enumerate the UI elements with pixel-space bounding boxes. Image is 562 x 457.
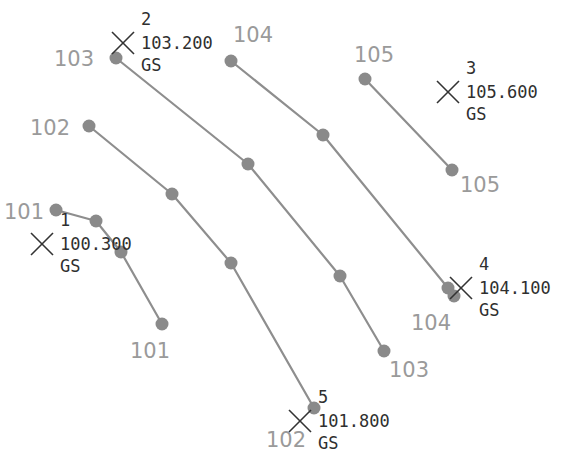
point-id: 1 xyxy=(60,210,70,230)
contour-label: 105 xyxy=(354,43,394,67)
contour-node[interactable] xyxy=(83,120,96,133)
point-code: GS xyxy=(141,55,161,75)
cross-marker-icon[interactable] xyxy=(112,32,134,54)
contour-label: 104 xyxy=(233,23,273,47)
contour-label: 103 xyxy=(54,47,94,71)
contour-label: 104 xyxy=(411,311,451,335)
contour-polyline[interactable] xyxy=(89,126,314,408)
point-id: 3 xyxy=(466,58,476,78)
survey-point-2[interactable]: 2103.200GS xyxy=(112,9,213,75)
point-elevation: 104.100 xyxy=(479,278,551,298)
point-code: GS xyxy=(466,104,486,124)
point-id: 4 xyxy=(479,254,489,274)
contour-label: 101 xyxy=(130,339,170,363)
cross-marker-icon[interactable] xyxy=(437,81,459,103)
contour-label: 101 xyxy=(4,200,44,224)
point-code: GS xyxy=(318,433,338,453)
contour-103[interactable]: 103103 xyxy=(54,47,429,382)
contour-polyline[interactable] xyxy=(365,79,452,170)
contour-map-canvas: 101101102102103103104104105105 1100.300G… xyxy=(0,0,562,457)
point-code: GS xyxy=(479,300,499,320)
contour-node[interactable] xyxy=(359,73,372,86)
contour-102[interactable]: 102102 xyxy=(30,116,321,452)
point-id: 2 xyxy=(141,9,151,29)
point-id: 5 xyxy=(318,387,328,407)
contour-node[interactable] xyxy=(156,318,169,331)
contour-node[interactable] xyxy=(334,270,347,283)
contour-node[interactable] xyxy=(90,215,103,228)
contour-label: 102 xyxy=(266,428,306,452)
point-elevation: 103.200 xyxy=(141,33,213,53)
point-elevation: 101.800 xyxy=(318,411,390,431)
contour-node[interactable] xyxy=(110,52,123,65)
contour-101[interactable]: 101101 xyxy=(4,200,170,363)
contour-label: 105 xyxy=(460,173,500,197)
survey-points-layer: 1100.300GS2103.200GS3105.600GS4104.100GS… xyxy=(31,9,551,453)
survey-point-3[interactable]: 3105.600GS xyxy=(437,58,538,124)
contour-node[interactable] xyxy=(317,129,330,142)
contour-polyline[interactable] xyxy=(116,58,384,351)
contour-node[interactable] xyxy=(242,158,255,171)
contour-label: 102 xyxy=(30,116,70,140)
contour-node[interactable] xyxy=(378,345,391,358)
survey-point-4[interactable]: 4104.100GS xyxy=(450,254,551,320)
contour-node[interactable] xyxy=(446,164,459,177)
point-code: GS xyxy=(60,256,80,276)
survey-point-1[interactable]: 1100.300GS xyxy=(31,210,132,276)
contour-node[interactable] xyxy=(225,257,238,270)
contour-label: 103 xyxy=(389,358,429,382)
contour-node[interactable] xyxy=(166,188,179,201)
point-elevation: 105.600 xyxy=(466,82,538,102)
point-elevation: 100.300 xyxy=(60,234,132,254)
contour-polyline[interactable] xyxy=(231,61,454,296)
cross-marker-icon[interactable] xyxy=(31,233,53,255)
contour-node[interactable] xyxy=(225,55,238,68)
